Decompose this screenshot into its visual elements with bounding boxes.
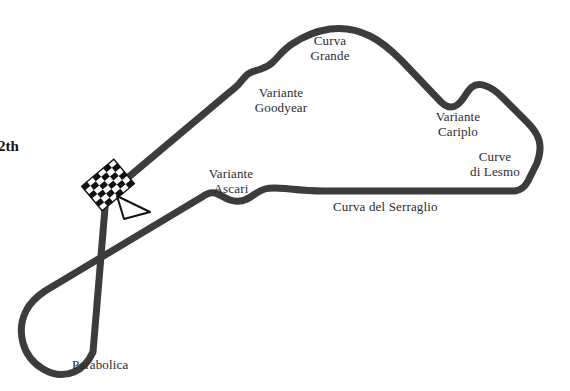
circuit-track-svg [0, 0, 570, 391]
edge-clipped-text: 2th [0, 138, 19, 154]
circuit-map: Curva Grande Variante Goodyear Variante … [0, 0, 570, 391]
direction-arrow-icon [117, 196, 150, 219]
